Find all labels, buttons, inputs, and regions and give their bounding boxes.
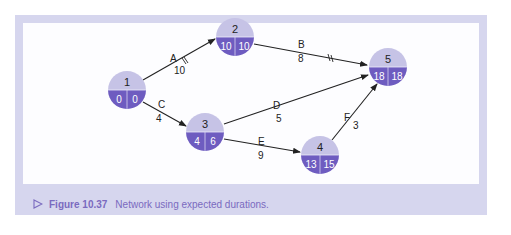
node-5: 5 18 18 [369, 48, 407, 86]
edge-b-name: B [298, 39, 305, 50]
node-3-latest: 6 [210, 136, 216, 147]
edge-f-name: F [344, 112, 350, 123]
node-1: 1 0 0 [108, 71, 146, 109]
edge-a: A 10 [143, 39, 215, 80]
edge-a-name: A [170, 53, 177, 64]
edge-a-duration: 10 [174, 65, 186, 76]
critical-path-mark [182, 57, 188, 64]
node-4: 4 13 15 [301, 136, 339, 174]
node-5-earliest: 18 [373, 71, 385, 82]
edge-e-name: E [258, 136, 265, 147]
node-1-earliest: 0 [116, 94, 122, 105]
edge-f: F 3 [332, 84, 377, 140]
node-5-id: 5 [385, 53, 391, 65]
node-4-id: 4 [317, 141, 323, 153]
edge-d-name: D [273, 100, 280, 111]
node-4-earliest: 13 [305, 159, 317, 170]
edge-f-duration: 3 [353, 120, 359, 131]
node-5-latest: 18 [391, 71, 403, 82]
figure-caption: Figure 10.37 Network using expected dura… [28, 196, 269, 212]
node-2-latest: 10 [238, 41, 250, 52]
node-2-id: 2 [232, 23, 238, 35]
node-3-id: 3 [202, 118, 208, 130]
edge-c-duration: 4 [156, 113, 162, 124]
node-2-earliest: 10 [220, 41, 232, 52]
node-1-id: 1 [124, 76, 130, 88]
figure-label: Figure 10.37 [49, 199, 107, 210]
node-4-latest: 15 [323, 159, 335, 170]
edge-c-name: C [158, 99, 165, 110]
edge-b-duration: 8 [298, 53, 304, 64]
edge-e-duration: 9 [258, 150, 264, 161]
caption-text: Network using expected durations. [115, 199, 268, 210]
edge-b: B 8 [254, 39, 367, 65]
edge-c: C 4 [143, 99, 186, 126]
edge-d-duration: 5 [276, 113, 282, 124]
node-3: 3 4 6 [186, 113, 224, 151]
node-3-earliest: 4 [194, 136, 200, 147]
node-1-latest: 0 [132, 94, 138, 105]
edge-e: E 9 [224, 136, 300, 161]
node-2: 2 10 10 [216, 18, 254, 56]
